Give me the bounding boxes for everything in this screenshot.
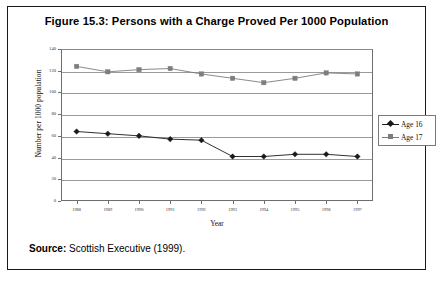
data-point: [167, 136, 173, 142]
data-point: [168, 66, 172, 70]
y-tick-label: 120: [34, 68, 56, 73]
y-tick-label: 60: [34, 133, 56, 138]
legend-label: Age 17: [401, 133, 423, 142]
legend-label: Age 16: [401, 120, 423, 129]
series-line-age-17: [77, 66, 358, 82]
y-tick-label: 140: [34, 46, 56, 51]
x-tick-mark: [326, 201, 327, 204]
source-note: Source: Scottish Executive (1999).: [29, 243, 185, 254]
x-tick-mark: [139, 201, 140, 204]
data-point: [230, 76, 234, 80]
y-tick-label: 0: [34, 198, 56, 203]
data-point: [293, 76, 297, 80]
chart-legend: Age 16Age 17: [378, 115, 436, 146]
x-tick-mark: [357, 201, 358, 204]
x-tick-label: 1995: [280, 207, 310, 212]
x-tick-label: 1991: [155, 207, 185, 212]
data-point: [137, 67, 141, 71]
x-tick-label: 1993: [218, 207, 248, 212]
data-point: [136, 133, 142, 139]
figure-frame: Figure 15.3: Persons with a Charge Prove…: [7, 6, 426, 270]
x-tick-mark: [264, 201, 265, 204]
data-point: [199, 72, 203, 76]
data-point: [323, 152, 329, 158]
data-point: [262, 80, 266, 84]
x-tick-mark: [233, 201, 234, 204]
data-point: [355, 72, 359, 76]
data-point: [74, 129, 80, 135]
x-tick-label: 1988: [62, 207, 92, 212]
data-series-layer: [61, 49, 373, 201]
x-tick-label: 1997: [342, 207, 372, 212]
x-tick-label: 1990: [124, 207, 154, 212]
x-tick-mark: [201, 201, 202, 204]
x-tick-label: 1994: [249, 207, 279, 212]
legend-item-age-16[interactable]: Age 16: [382, 118, 432, 131]
square-marker-icon: [382, 133, 399, 142]
data-point: [324, 71, 328, 75]
x-axis-title: Year: [61, 219, 373, 228]
y-tick-label: 40: [34, 155, 56, 160]
data-point: [230, 154, 236, 160]
diamond-marker-icon: [382, 120, 399, 129]
y-tick-label: 20: [34, 176, 56, 181]
series-line-age-16: [77, 132, 358, 157]
y-tick-label: 80: [34, 111, 56, 116]
source-label: Source:: [29, 243, 66, 254]
x-tick-mark: [295, 201, 296, 204]
legend-item-age-17[interactable]: Age 17: [382, 131, 432, 144]
data-point: [106, 70, 110, 74]
x-tick-label: 1989: [93, 207, 123, 212]
chart-area: Number per 1000 population 0204060801001…: [14, 39, 420, 231]
data-point: [74, 64, 78, 68]
data-point: [105, 131, 111, 137]
y-tick-mark: [58, 201, 61, 202]
x-tick-mark: [170, 201, 171, 204]
y-tick-label: 100: [34, 89, 56, 94]
x-tick-label: 1996: [311, 207, 341, 212]
x-tick-mark: [108, 201, 109, 204]
figure-title: Figure 15.3: Persons with a Charge Prove…: [8, 15, 425, 27]
x-tick-mark: [77, 201, 78, 204]
data-point: [292, 152, 298, 158]
data-point: [355, 154, 361, 160]
data-point: [199, 137, 205, 143]
x-tick-label: 1992: [186, 207, 216, 212]
source-text: Scottish Executive (1999).: [69, 243, 185, 254]
data-point: [261, 154, 267, 160]
